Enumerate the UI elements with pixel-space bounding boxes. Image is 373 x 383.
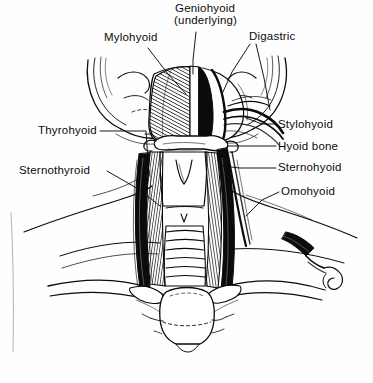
label-geniohyoid: Geniohyoid bbox=[175, 2, 235, 15]
thyroid-cartilage bbox=[160, 152, 207, 222]
anatomy-figure: Mylohyoid Geniohyoid (underlying) Digast… bbox=[0, 0, 373, 383]
label-sternohyoid: Sternohyoid bbox=[278, 161, 342, 174]
label-digastric: Digastric bbox=[249, 30, 296, 43]
leader-digastric-posterior bbox=[256, 44, 270, 110]
label-mylohyoid: Mylohyoid bbox=[104, 31, 158, 44]
label-stylohyoid: Stylohyoid bbox=[278, 118, 333, 131]
submandibular-region bbox=[149, 66, 283, 145]
sternohyoid-right bbox=[205, 152, 221, 288]
mylohyoid-muscle bbox=[150, 67, 190, 141]
label-sternothyroid: Sternothyroid bbox=[19, 164, 90, 177]
label-geniohyoid-underlying: (underlying) bbox=[174, 14, 237, 27]
clavicles-and-sternum bbox=[48, 280, 325, 352]
trachea bbox=[164, 226, 205, 286]
omohyoid-inferior-belly bbox=[282, 232, 342, 289]
label-omohyoid: Omohyoid bbox=[281, 185, 335, 198]
label-hyoid-bone: Hyoid bone bbox=[278, 140, 338, 153]
geniohyoid-muscle bbox=[190, 66, 199, 140]
label-thyrohyoid: Thyrohyoid bbox=[38, 124, 97, 137]
